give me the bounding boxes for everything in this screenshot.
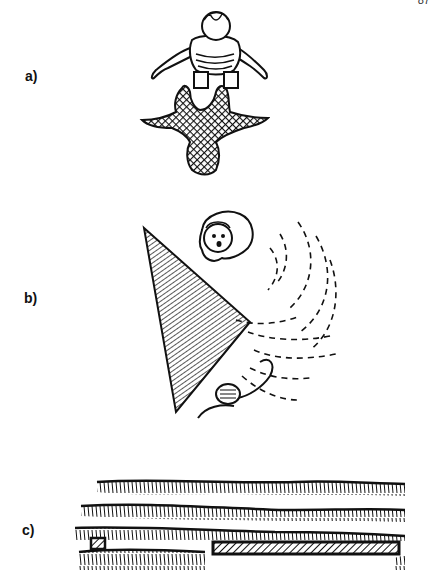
panel-label-a: a): [25, 68, 37, 84]
scene-b-sound-around-wall: [130, 200, 340, 420]
vegetation-row: [97, 481, 405, 496]
vegetation-row: [75, 527, 405, 542]
wall-and-sound-waves-illustration: [130, 200, 340, 420]
panel-label-b: b): [24, 290, 37, 306]
scene-a-person-shadow: [130, 0, 270, 180]
vegetation-row: [81, 505, 405, 522]
listener-person: [200, 212, 253, 261]
scene-c-vegetation-rows: [75, 470, 405, 570]
small-hatched-box: [91, 538, 105, 549]
vegetation-rows-illustration: [75, 470, 405, 570]
sound-waves: [236, 222, 336, 400]
page-number: 87: [418, 0, 430, 6]
person-with-shadow-illustration: [130, 0, 270, 180]
long-hatched-bar: [213, 542, 399, 554]
panel-label-c: c): [22, 522, 34, 538]
